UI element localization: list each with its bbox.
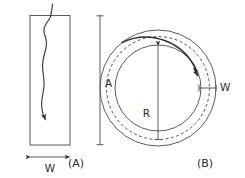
panel-b-caption: (B) (197, 157, 213, 170)
figure-canvas: A W (A) R W (B) (0, 0, 245, 178)
dimension-label-w-strip: W (45, 162, 56, 174)
panel-a-caption: (A) (68, 157, 84, 170)
figure-background (0, 0, 245, 178)
dimension-label-r: R (143, 107, 150, 119)
dimension-label-w-ring: W (220, 81, 231, 93)
